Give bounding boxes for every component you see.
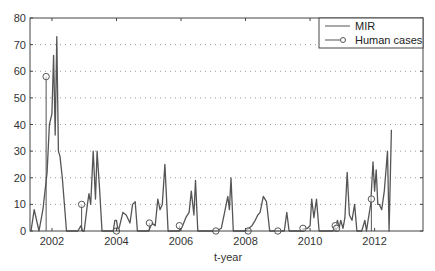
legend: MIR Human cases [319,18,423,48]
human-cases-marker [176,222,182,228]
y-tick-label: 50 [14,92,26,104]
x-tick-label: 2010 [298,235,322,247]
y-tick-label: 80 [14,12,26,24]
x-tick-label: 2012 [362,235,386,247]
legend-item-human-cases: Human cases [355,34,423,46]
x-tick-label: 2008 [233,235,257,247]
axes-frame [30,18,423,231]
y-tick-label: 30 [14,145,26,157]
x-tick-label: 2006 [169,235,193,247]
y-tick-label: 60 [14,65,26,77]
y-tick-label: 70 [14,39,26,51]
chart: 200220042006200820102012 010203040506070… [0,0,435,271]
y-tick-label: 40 [14,119,26,131]
x-tick-label: 2002 [40,235,64,247]
x-tick-label: 2004 [104,235,128,247]
human-cases-marker [43,73,49,79]
mir-line [31,37,391,231]
human-cases-marker [368,196,374,202]
human-cases-marker [78,201,84,207]
human-cases-marker [146,220,152,226]
legend-item-mir: MIR [355,20,375,32]
y-tick-label: 10 [14,198,26,210]
x-axis: 200220042006200820102012 [40,18,387,247]
x-axis-label: t-year [214,251,242,263]
grid-lines [30,45,423,205]
plot-area [31,37,391,235]
y-tick-label: 0 [20,225,26,237]
y-tick-label: 20 [14,172,26,184]
